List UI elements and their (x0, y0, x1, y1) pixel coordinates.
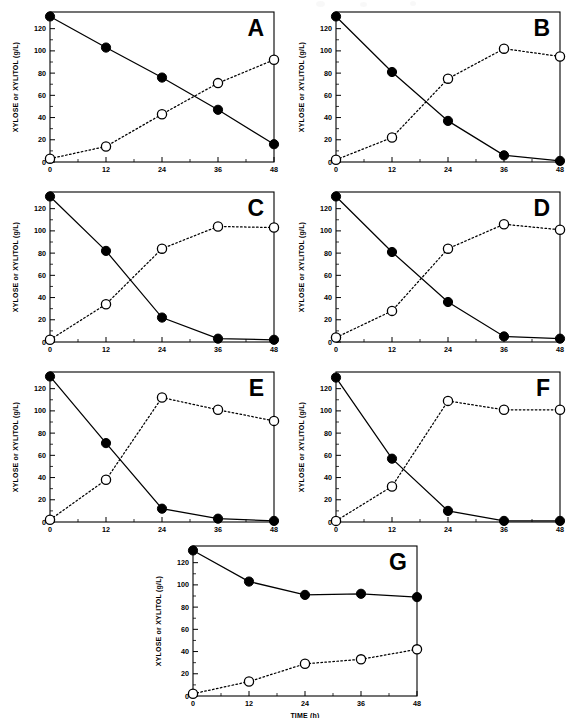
y-tick-label: 60 (181, 625, 189, 634)
y-tick-label: 20 (324, 495, 332, 504)
data-point-xylose (443, 116, 452, 125)
data-point-xylose (45, 192, 54, 201)
series-line-xylitol (193, 649, 417, 693)
x-tick-label: 0 (334, 525, 338, 534)
x-tick-label: 24 (158, 345, 166, 354)
data-point-xylose (331, 12, 340, 21)
data-point-xylose (101, 246, 110, 255)
data-point-xylitol (213, 79, 222, 88)
data-point-xylitol (300, 659, 309, 668)
data-point-xylitol (269, 223, 278, 232)
y-tick-label: 80 (324, 69, 332, 78)
x-tick-label: 36 (214, 165, 222, 174)
x-tick-label: 48 (556, 525, 564, 534)
data-point-xylitol (331, 516, 340, 525)
series-line-xylose (336, 16, 560, 160)
x-tick-label: 36 (500, 345, 508, 354)
panel-D: 020406080100120012243648XYLOSE or XYLITO… (286, 184, 572, 364)
data-point-xylitol (157, 110, 166, 119)
x-tick-label: 24 (444, 525, 452, 534)
y-tick-label: 120 (320, 24, 332, 33)
panel-letter: G (389, 549, 407, 575)
x-tick-label: 36 (214, 345, 222, 354)
y-tick-label: 100 (320, 406, 332, 415)
plot-D: 020406080100120012243648XYLOSE or XYLITO… (286, 184, 572, 364)
x-tick-label: 0 (48, 165, 52, 174)
data-point-xylitol (331, 155, 340, 164)
x-tick-label: 12 (102, 165, 110, 174)
y-tick-label: 40 (38, 113, 46, 122)
data-point-xylitol (555, 225, 564, 234)
x-tick-label: 36 (214, 525, 222, 534)
x-tick-label: 12 (388, 345, 396, 354)
y-tick-label: 100 (34, 46, 46, 55)
x-tick-label: 48 (270, 165, 278, 174)
data-point-xylose (45, 372, 54, 381)
data-point-xylose (555, 334, 564, 343)
data-point-xylose (499, 151, 508, 160)
panel-F: 020406080100120012243648XYLOSE or XYLITO… (286, 364, 572, 544)
data-point-xylitol (269, 416, 278, 425)
data-point-xylitol (387, 133, 396, 142)
data-point-xylose (356, 589, 365, 598)
data-point-xylitol (499, 44, 508, 53)
panel-E: 020406080100120012243648XYLOSE or XYLITO… (0, 364, 286, 544)
data-point-xylose (555, 156, 564, 165)
data-point-xylitol (331, 333, 340, 342)
data-point-xylitol (213, 405, 222, 414)
panel-letter: B (533, 15, 550, 41)
series-line-xylitol (336, 49, 560, 160)
data-point-xylitol (443, 396, 452, 405)
x-tick-label: 12 (102, 525, 110, 534)
data-point-xylitol (443, 74, 452, 83)
y-axis-title: XYLOSE or XYLITOL (g/L) (298, 402, 306, 492)
y-axis-title: XYLOSE or XYLITOL (g/L) (298, 42, 306, 132)
data-point-xylose (300, 590, 309, 599)
data-point-xylose (269, 335, 278, 344)
y-axis-title: XYLOSE or XYLITOL (g/L) (12, 402, 20, 492)
data-point-xylitol (157, 393, 166, 402)
plot-frame (336, 12, 560, 162)
series-line-xylitol (336, 224, 560, 337)
data-point-xylose (412, 593, 421, 602)
x-tick-label: 0 (48, 525, 52, 534)
y-tick-label: 60 (324, 451, 332, 460)
panel-letter: C (247, 195, 264, 221)
y-tick-label: 40 (181, 647, 189, 656)
data-point-xylitol (213, 222, 222, 231)
data-point-xylose (213, 105, 222, 114)
data-point-xylose (269, 516, 278, 525)
data-point-xylose (499, 516, 508, 525)
data-point-xylose (443, 297, 452, 306)
x-tick-label: 36 (357, 699, 365, 708)
y-tick-label: 120 (34, 24, 46, 33)
data-point-xylose (213, 334, 222, 343)
data-point-xylose (331, 373, 340, 382)
data-point-xylitol (45, 515, 54, 524)
y-tick-label: 80 (38, 429, 46, 438)
x-tick-label: 36 (500, 525, 508, 534)
x-tick-label: 48 (270, 525, 278, 534)
series-line-xylose (336, 196, 560, 338)
data-point-xylitol (443, 244, 452, 253)
data-point-xylose (499, 332, 508, 341)
data-point-xylitol (101, 475, 110, 484)
x-tick-label: 0 (334, 165, 338, 174)
plot-F: 020406080100120012243648XYLOSE or XYLITO… (286, 364, 572, 544)
data-point-xylitol (45, 335, 54, 344)
y-tick-label: 60 (324, 271, 332, 280)
x-tick-label: 24 (158, 525, 166, 534)
data-point-xylitol (356, 655, 365, 664)
y-tick-label: 40 (324, 293, 332, 302)
y-tick-label: 100 (34, 406, 46, 415)
panel-letter: E (249, 375, 264, 401)
plot-B: 020406080100120012243648XYLOSE or XYLITO… (286, 4, 572, 184)
data-point-xylose (157, 504, 166, 513)
y-tick-label: 120 (320, 384, 332, 393)
data-point-xylitol (45, 154, 54, 163)
y-tick-label: 60 (38, 271, 46, 280)
panel-letter: D (533, 195, 550, 221)
panel-letter: F (536, 375, 550, 401)
x-tick-label: 48 (556, 345, 564, 354)
data-point-xylitol (101, 300, 110, 309)
